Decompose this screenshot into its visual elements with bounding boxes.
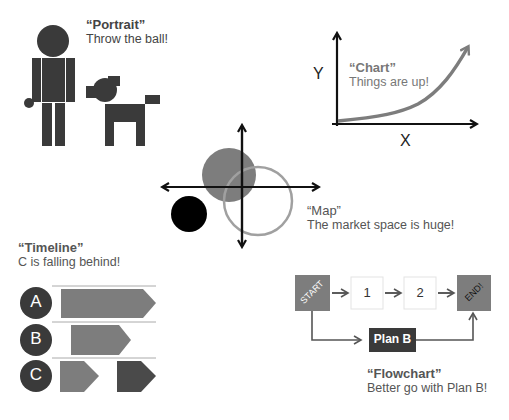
map-caption: “Map” The market space is huge! xyxy=(307,203,454,232)
chart-y-label: Y xyxy=(313,65,324,83)
map-title: “Map” xyxy=(307,203,454,218)
flow-step1-label: 1 xyxy=(351,285,383,300)
map-subtitle: The market space is huge! xyxy=(307,218,454,232)
flowchart-subtitle: Better go with Plan B! xyxy=(367,381,487,395)
bar-c2 xyxy=(117,361,156,392)
timeline-subtitle: C is falling behind! xyxy=(18,255,120,269)
chart-x-label: X xyxy=(400,132,411,150)
portrait-caption: “Portrait” Throw the ball! xyxy=(86,17,168,46)
flow-step2-label: 2 xyxy=(404,285,436,300)
black-market-circle xyxy=(171,196,207,232)
bar-a xyxy=(61,289,156,318)
bar-c1 xyxy=(60,361,99,392)
flowchart-title: “Flowchart” xyxy=(367,366,487,381)
gray-market-circle xyxy=(202,148,256,202)
person-head xyxy=(37,25,69,57)
timeline-label-b: B xyxy=(20,329,52,349)
flowchart-caption: “Flowchart” Better go with Plan B! xyxy=(367,366,487,395)
timeline-label-c: C xyxy=(20,365,52,385)
timeline-label-a: A xyxy=(20,292,52,312)
bar-b xyxy=(71,325,131,355)
chart-title: “Chart” xyxy=(349,60,429,75)
timeline-title: “Timeline” xyxy=(18,240,120,255)
person-figure xyxy=(24,25,75,146)
dog-figure xyxy=(86,76,160,146)
chart-caption: “Chart” Things are up! xyxy=(349,60,429,89)
timeline-caption: “Timeline” C is falling behind! xyxy=(18,240,120,269)
flow-planb-label: Plan B xyxy=(369,332,416,346)
map-graphic xyxy=(163,126,318,246)
portrait-subtitle: Throw the ball! xyxy=(86,32,168,46)
chart-subtitle: Things are up! xyxy=(349,75,429,89)
ball-icon xyxy=(24,98,34,108)
portrait-title: “Portrait” xyxy=(86,17,168,32)
